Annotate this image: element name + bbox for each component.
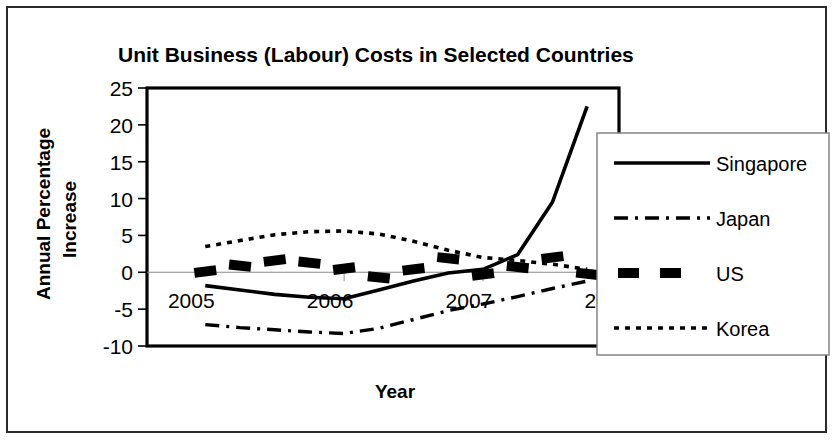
x-axis-label: 2005: [168, 289, 215, 312]
y-tick-label: -5: [114, 298, 133, 321]
y-tick-label: 10: [110, 188, 133, 211]
legend-label: US: [716, 263, 744, 285]
legend-label: Korea: [716, 318, 770, 340]
y-axis-title: Annual Percentage Increase: [33, 128, 80, 300]
chart-figure: Unit Business (Labour) Costs in Selected…: [0, 0, 835, 441]
legend-label: Japan: [716, 208, 771, 230]
legend-swatch-us: [660, 268, 681, 278]
x-axis-label: 2007: [446, 289, 493, 312]
y-axis-title-line1: Annual Percentage: [33, 128, 54, 300]
screenshot-canvas: Unit Business (Labour) Costs in Selected…: [0, 0, 835, 441]
plot-area-frame: [147, 88, 619, 346]
legend-swatch-us: [618, 268, 639, 278]
legend-label: Singapore: [716, 153, 807, 175]
chart-svg: Unit Business (Labour) Costs in Selected…: [0, 0, 835, 441]
x-axis-title: Year: [375, 381, 416, 402]
y-tick-label: 25: [110, 77, 133, 100]
y-axis-title-line2: Increase: [59, 181, 80, 258]
y-tick-label: 5: [121, 224, 133, 247]
y-tick-label: 20: [110, 114, 133, 137]
y-tick-label: -10: [103, 335, 133, 358]
chart-legend: SingaporeJapanUSKorea: [597, 133, 829, 355]
chart-title: Unit Business (Labour) Costs in Selected…: [118, 43, 634, 66]
y-axis-ticks: 2520151050-5-10: [103, 77, 147, 358]
y-tick-label: 0: [121, 261, 133, 284]
x-axis-label: 2006: [307, 289, 354, 312]
y-tick-label: 15: [110, 151, 133, 174]
